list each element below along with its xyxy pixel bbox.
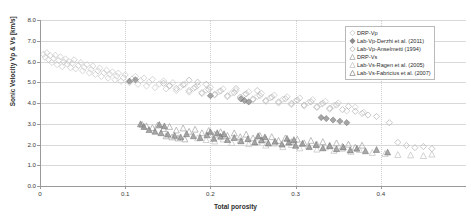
x-tick-label: 0.3 (281, 191, 311, 197)
data-point (320, 145, 326, 151)
sonic-velocity-porosity-chart: 0.01.02.03.04.05.06.07.08.0 00.10.20.30.… (0, 0, 471, 220)
legend-item-label: Lab-Vp-Anselmetti (1994) (357, 45, 421, 53)
diamond-marker-icon (348, 37, 357, 45)
data-point (170, 80, 176, 86)
y-axis-line (40, 20, 41, 186)
data-point (408, 152, 414, 158)
y-axis-title: Sonic Velocity Vp & Vs [km/s] (10, 0, 16, 126)
data-point (184, 131, 190, 137)
data-point (386, 120, 392, 126)
data-point (178, 134, 184, 140)
data-point (279, 141, 285, 147)
data-point (180, 125, 186, 131)
data-point (152, 85, 158, 91)
legend-item[interactable]: Lab-Vp-Derzhi et al. (2011) (348, 37, 431, 45)
data-point (161, 123, 167, 129)
triangle-marker-icon (348, 61, 357, 69)
legend-item[interactable]: Lab-Vp-Anselmetti (1994) (348, 45, 431, 53)
data-point (333, 140, 339, 146)
data-point (335, 100, 341, 106)
data-point (420, 143, 426, 149)
data-point (173, 127, 179, 133)
x-tick-label: 0.4 (366, 191, 396, 197)
data-point (345, 141, 351, 147)
data-point (158, 130, 164, 136)
data-point (374, 147, 380, 153)
data-point (199, 130, 205, 136)
legend-item-label: DRP-Vs (357, 53, 377, 61)
x-tick-mark (210, 186, 211, 189)
data-point (137, 77, 143, 83)
data-point (318, 114, 324, 120)
data-point (412, 145, 418, 151)
legend-item[interactable]: Lab-Vs-Ragen et al. (2005) (348, 61, 431, 69)
x-tick-label: 0.2 (195, 191, 225, 197)
y-tick-mark (37, 124, 40, 125)
data-point (337, 118, 343, 124)
data-point (186, 77, 192, 83)
y-tick-mark (37, 103, 40, 104)
y-tick-mark (37, 62, 40, 63)
data-point (395, 152, 401, 158)
data-point (245, 136, 251, 142)
x-axis-line (40, 186, 466, 187)
data-point (233, 85, 239, 91)
data-point (92, 71, 98, 77)
legend-item[interactable]: DRP-Vp (348, 29, 431, 37)
legend-item[interactable]: DRP-Vs (348, 53, 431, 61)
data-point (330, 117, 336, 123)
data-point (141, 75, 147, 81)
data-point (207, 129, 213, 135)
data-point (284, 94, 290, 100)
data-point (352, 108, 358, 114)
x-tick-label: 0 (25, 191, 55, 197)
x-tick-mark (381, 186, 382, 189)
data-point (403, 142, 409, 148)
legend-item-label: Lab-Vp-Derzhi et al. (2011) (357, 37, 424, 45)
legend-item-label: DRP-Vp (357, 29, 378, 37)
legend: DRP-VpLab-Vp-Derzhi et al. (2011)Lab-Vp-… (345, 26, 435, 80)
data-point (231, 135, 237, 141)
data-point (146, 79, 152, 85)
x-tick-mark (40, 186, 41, 189)
y-tick-mark (37, 82, 40, 83)
y-tick-label: 1.0 (10, 162, 36, 168)
x-tick-mark (125, 186, 126, 189)
diamond-marker-icon (348, 29, 357, 37)
x-axis-title: Total porosity (0, 203, 471, 210)
legend-item-label: Lab-Vs-Fabricius et al. (2007) (357, 69, 431, 77)
y-tick-mark (37, 165, 40, 166)
data-point (362, 148, 368, 154)
series-drp-vp (40, 50, 367, 116)
triangle-marker-icon (348, 69, 357, 77)
data-point (143, 83, 149, 89)
y-tick-mark (37, 20, 40, 21)
data-point (233, 87, 239, 93)
data-point (344, 120, 350, 126)
series-lab-vp-derzhi-et-al-2011 (126, 77, 349, 126)
y-tick-label: 2.0 (10, 142, 36, 148)
data-point (190, 133, 196, 139)
data-point (173, 87, 179, 93)
data-point (152, 128, 158, 134)
data-point (192, 126, 198, 132)
data-point (269, 134, 275, 140)
data-point (323, 115, 329, 121)
data-point (352, 104, 358, 110)
data-point (420, 153, 426, 159)
legend-item-label: Lab-Vs-Ragen et al. (2005) (357, 61, 424, 69)
data-point (320, 139, 326, 145)
data-point (308, 137, 314, 143)
data-point (262, 134, 268, 140)
data-point (373, 113, 379, 119)
data-point (98, 73, 104, 79)
data-point (395, 139, 401, 145)
x-tick-mark (296, 186, 297, 189)
y-tick-mark (37, 145, 40, 146)
y-tick-mark (37, 41, 40, 42)
data-point (118, 78, 124, 84)
legend-item[interactable]: Lab-Vs-Fabricius et al. (2007) (348, 69, 431, 77)
y-tick-label: 0.0 (10, 183, 36, 189)
triangle-marker-icon (348, 53, 357, 61)
diamond-marker-icon (348, 45, 357, 53)
